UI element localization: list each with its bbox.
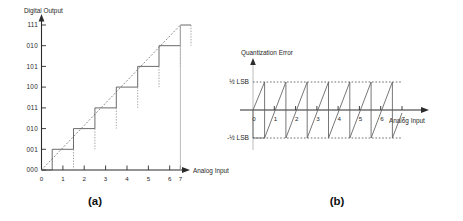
panel-a-y-axis-title: Digital Output — [24, 7, 63, 15]
panel-a-y-tick-label-5: 101 — [26, 63, 38, 70]
panel-b-x-tick-label-5: 5 — [359, 115, 363, 122]
panel-b: Quantization Error Analog Input ½ LSB -½… — [227, 49, 429, 207]
panel-a-x-tick-label-5: 5 — [147, 175, 151, 182]
figure-container: Digital Output Analog Input — [0, 0, 463, 221]
panel-a-x-tick-label-3: 3 — [104, 175, 108, 182]
panel-a-x-tick-label-1: 1 — [61, 175, 65, 182]
panel-a-y-tick-label-4: 100 — [26, 83, 38, 90]
panel-b-x-tick-label-3: 3 — [316, 115, 320, 122]
panel-a-y-tick-label-7: 111 — [27, 21, 38, 28]
panel-a-y-tick-label-1: 001 — [26, 146, 38, 153]
panel-a-y-tick-labels: 000 001 010 011 100 101 010 111 — [26, 21, 38, 173]
panel-a-x-tick-label-4: 4 — [125, 175, 129, 182]
panel-a-staircase-curve — [42, 25, 192, 170]
panel-a: Digital Output Analog Input — [24, 7, 229, 207]
panel-a-y-tick-label-6: 010 — [26, 42, 38, 49]
panel-a-x-tick-label-0: 0 — [40, 175, 44, 182]
panel-a-x-tick-label-2: 2 — [82, 175, 86, 182]
panel-b-y-axis-title: Quantization Error — [241, 49, 294, 57]
adc-quantization-figure: Digital Output Analog Input — [0, 0, 463, 221]
panel-b-x-tick-label-1: 1 — [274, 115, 278, 122]
panel-b-x-tick-label-2: 2 — [295, 115, 299, 122]
panel-a-y-ticks — [42, 25, 47, 170]
panel-b-x-tick-label-6: 6 — [380, 115, 384, 122]
panel-a-ideal-transfer-line — [42, 25, 181, 170]
panel-a-x-tick-labels: 0 1 2 3 4 5 6 7 — [40, 175, 183, 182]
panel-a-x-ticks — [42, 166, 181, 171]
panel-b-caption: (b) — [330, 195, 345, 207]
panel-b-lower-lsb-label: -½ LSB — [227, 134, 250, 141]
panel-b-x-axis-arrow-icon — [421, 107, 429, 113]
panel-a-x-axis-arrow-icon — [182, 167, 190, 173]
panel-b-x-axis-title: Analog Input — [389, 117, 425, 125]
panel-a-x-tick-label-6: 6 — [168, 175, 172, 182]
panel-a-y-axis-arrow-icon — [39, 14, 45, 22]
panel-a-x-tick-label-7: 7 — [179, 175, 183, 182]
panel-a-y-tick-label-3: 011 — [27, 104, 38, 111]
panel-b-y-axis-arrow-icon — [250, 58, 256, 65]
panel-a-y-tick-label-2: 010 — [26, 125, 38, 132]
panel-a-step-dropped-guides — [74, 25, 192, 170]
panel-b-x-tick-label-4: 4 — [338, 115, 342, 122]
panel-b-x-tick-label-7: 7 — [401, 115, 405, 122]
panel-b-upper-lsb-label: ½ LSB — [229, 78, 249, 85]
panel-a-caption: (a) — [88, 195, 102, 207]
panel-a-y-tick-label-0: 000 — [26, 166, 38, 173]
panel-a-x-axis-title: Analog Input — [193, 167, 229, 175]
